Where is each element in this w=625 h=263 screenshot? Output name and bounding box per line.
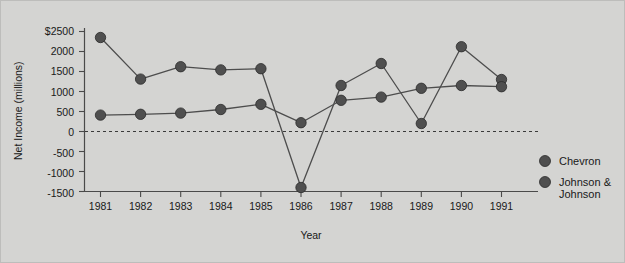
series-layer <box>95 32 506 192</box>
chart-figure: Net Income (millions) $2500 2000 1500 10… <box>0 0 625 263</box>
y-tick-label: 0 <box>68 126 74 138</box>
legend-label-johnson-and-johnson: Johnson & <box>559 176 612 188</box>
x-tick-label: 1989 <box>410 200 434 212</box>
x-tick-label: 1986 <box>289 200 313 212</box>
data-point <box>176 61 186 71</box>
y-axis-ticks <box>79 32 84 192</box>
data-point <box>416 118 426 128</box>
data-point <box>135 109 145 119</box>
data-point <box>95 32 105 42</box>
data-point <box>456 80 466 90</box>
x-tick-label: 1985 <box>249 200 273 212</box>
x-axis-tick-labels: 1981 1982 1983 1984 1985 1986 1987 1988 … <box>89 200 514 212</box>
x-tick-label: 1988 <box>370 200 394 212</box>
data-point <box>216 104 226 114</box>
x-tick-label: 1984 <box>209 200 233 212</box>
chart-legend: Chevron Johnson & Johnson <box>540 155 612 200</box>
x-axis-title: Year <box>300 229 322 241</box>
legend-label-chevron: Chevron <box>559 155 601 167</box>
series-johnson-johnson <box>95 80 506 128</box>
data-point <box>216 65 226 75</box>
legend-label-johnson-and-johnson-line2: Johnson <box>559 188 601 200</box>
x-tick-label: 1987 <box>329 200 353 212</box>
data-point <box>376 58 386 68</box>
y-tick-label: 500 <box>56 106 74 118</box>
line-chart: Net Income (millions) $2500 2000 1500 10… <box>0 0 625 263</box>
data-point <box>256 63 266 73</box>
data-point <box>95 110 105 120</box>
data-point <box>296 182 306 192</box>
data-point <box>496 82 506 92</box>
data-point <box>336 95 346 105</box>
y-tick-label: $2500 <box>45 25 74 37</box>
data-point <box>256 99 266 109</box>
data-point <box>336 80 346 90</box>
data-point <box>376 92 386 102</box>
y-tick-label: 2000 <box>51 45 75 57</box>
data-point <box>416 83 426 93</box>
data-point <box>135 74 145 84</box>
data-point <box>176 108 186 118</box>
data-point <box>456 42 466 52</box>
x-tick-label: 1982 <box>129 200 153 212</box>
y-tick-label: 1000 <box>51 86 75 98</box>
x-tick-label: 1991 <box>490 200 514 212</box>
x-tick-label: 1990 <box>450 200 474 212</box>
y-tick-label: -500 <box>53 147 74 159</box>
y-axis-tick-labels: $2500 2000 1500 1000 500 0 -500 -1000 -1… <box>45 25 74 199</box>
y-tick-label: -1500 <box>47 187 74 199</box>
series-line <box>101 38 502 188</box>
legend-swatch-chevron <box>540 156 551 167</box>
y-tick-label: 1500 <box>51 65 75 77</box>
y-axis-title: Net Income (millions) <box>12 61 24 160</box>
y-tick-label: -1000 <box>47 167 74 179</box>
data-point <box>296 118 306 128</box>
legend-swatch-johnson-and-johnson <box>540 177 551 188</box>
x-tick-label: 1983 <box>169 200 193 212</box>
x-tick-label: 1981 <box>89 200 113 212</box>
series-chevron <box>95 32 506 192</box>
